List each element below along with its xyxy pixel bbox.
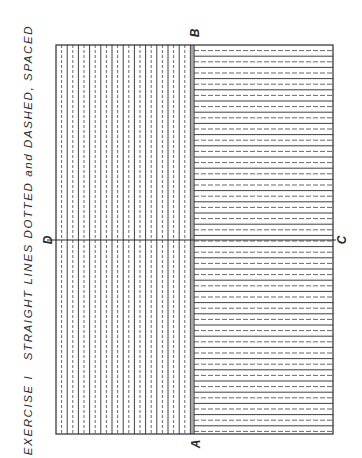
horizontal-lines-region — [194, 51, 333, 432]
label-a: A — [189, 440, 203, 449]
label-c: C — [335, 236, 349, 245]
label-d: D — [41, 236, 55, 245]
exercise-title: EXERCISE I STRAIGHT LINES DOTTED and DAS… — [22, 25, 34, 455]
label-b: B — [188, 29, 202, 38]
